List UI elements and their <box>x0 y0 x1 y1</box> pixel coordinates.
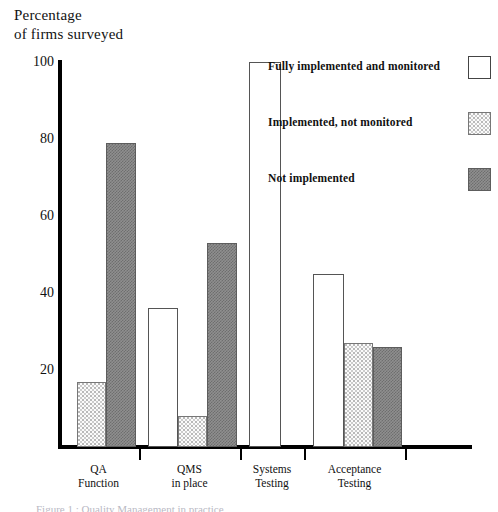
bar-qa-function-not-implemented <box>106 143 136 447</box>
bar-acceptance-testing-fully-implemented <box>313 274 344 447</box>
chart-legend: Fully implemented and monitoredImplement… <box>268 56 494 196</box>
legend-label-3: Not implemented <box>268 172 355 184</box>
bar-acceptance-testing-implemented-not-monitored <box>344 343 373 447</box>
legend-item-3: Not implemented <box>268 168 494 194</box>
figure-caption: Figure 1 : Quality Management in practic… <box>36 503 224 512</box>
bar-acceptance-testing-not-implemented <box>373 347 402 447</box>
bar-qms-in-place-implemented-not-monitored <box>178 416 207 447</box>
legend-item-2: Implemented, not monitored <box>268 112 494 138</box>
legend-label-2: Implemented, not monitored <box>268 116 413 128</box>
legend-item-1: Fully implemented and monitored <box>268 56 494 82</box>
bar-qa-function-implemented-not-monitored <box>77 382 106 447</box>
dotted-square-icon <box>468 112 491 135</box>
bar-qms-in-place-fully-implemented <box>148 308 178 447</box>
white-open-square-icon <box>468 56 491 79</box>
crosshatch-square-icon <box>468 168 491 191</box>
legend-label-1: Fully implemented and monitored <box>268 60 440 72</box>
bar-qms-in-place-not-implemented <box>207 243 237 447</box>
